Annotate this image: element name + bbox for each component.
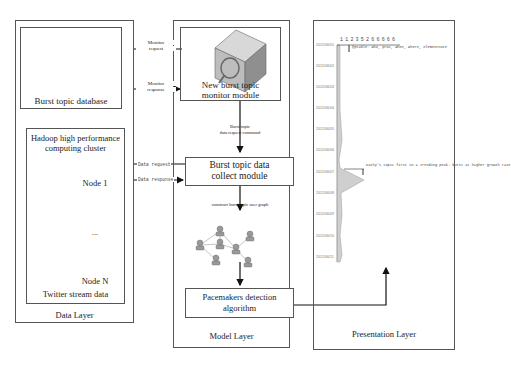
timeline-header-ticks: 11235266666 — [340, 37, 397, 43]
timeline-date: 2012/06/02 — [316, 64, 334, 68]
monitor-response-label-1: Monitor — [136, 81, 176, 86]
timeline-date: 2012/06/07 — [316, 170, 334, 174]
timeline-date: 2012/06/08 — [316, 191, 334, 195]
model-layer-label: Model Layer — [173, 331, 290, 342]
database-label: Burst topic database — [20, 96, 122, 107]
node-1-label: Node 1 — [80, 178, 110, 189]
timeline-date: 2012/06/06 — [316, 148, 334, 152]
timeline-date: 2012/06/03 — [316, 85, 334, 89]
timeline-date: 2012/06/10 — [316, 234, 334, 238]
data-response-label: Data response — [137, 177, 174, 182]
timeline-date: 2012/06/04 — [316, 106, 334, 110]
data-request-label: Data request — [137, 162, 171, 167]
cluster-title-2: computing cluster — [26, 143, 125, 154]
pacemaker-label-1: Pacemakers detection — [185, 292, 294, 303]
monitor-request-label-1: Monitor — [136, 40, 176, 45]
cluster-box — [26, 128, 125, 304]
graph-label: construct burst topic user graph — [180, 202, 300, 207]
cluster-footer: Twitter stream data — [26, 289, 125, 300]
timeline-annotation-peak: Kathy's topic first to a trending peak: … — [366, 163, 511, 167]
timeline-annotation-top: @ptable: who, proc, when, where, element… — [352, 45, 447, 49]
timeline-date: 2012/06/01 — [316, 43, 334, 47]
node-n-label: Node N — [80, 276, 110, 287]
command-label-1: Burst topic — [190, 124, 290, 129]
collect-module-label-1: Burst topic data — [185, 160, 294, 171]
presentation-layer-label: Presentation Layer — [313, 329, 455, 340]
monitor-response-label-2: response — [136, 87, 176, 92]
command-label-2: data request command — [190, 130, 290, 135]
monitor-request-label-2: request — [136, 46, 176, 51]
monitor-module-label-2: monitor module — [180, 90, 281, 101]
timeline-date: 2012/06/11 — [316, 255, 334, 259]
pacemaker-label-2: algorithm — [185, 303, 294, 314]
node-ellipsis-label: ... — [80, 227, 110, 238]
data-layer-label: Data Layer — [15, 310, 134, 321]
timeline-date: 2012/06/09 — [316, 212, 334, 216]
collect-module-label-2: collect module — [185, 171, 294, 182]
timeline-date: 2012/06/05 — [316, 127, 334, 131]
presentation-layer-panel — [313, 20, 455, 350]
